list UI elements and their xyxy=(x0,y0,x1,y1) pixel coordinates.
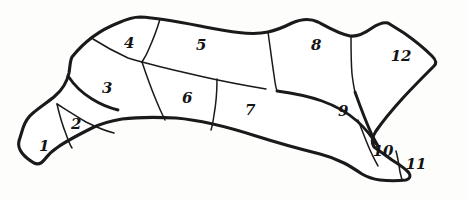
region-1-label: 1 xyxy=(39,139,49,154)
region-12-label: 12 xyxy=(391,49,411,64)
region-6-label: 6 xyxy=(182,91,192,106)
animal-body-outline xyxy=(0,0,468,199)
region-7-label: 7 xyxy=(245,103,255,118)
region-3-label: 3 xyxy=(102,81,112,96)
cuts-diagram: 1 2 3 4 5 6 7 8 9 10 11 12 xyxy=(0,0,468,199)
region-5-label: 5 xyxy=(196,38,206,53)
region-10-label: 10 xyxy=(373,144,393,159)
region-11-label: 11 xyxy=(406,157,426,172)
region-2-label: 2 xyxy=(71,117,81,132)
region-4-label: 4 xyxy=(124,36,134,51)
region-8-label: 8 xyxy=(311,38,321,53)
region-9-label: 9 xyxy=(338,104,348,119)
